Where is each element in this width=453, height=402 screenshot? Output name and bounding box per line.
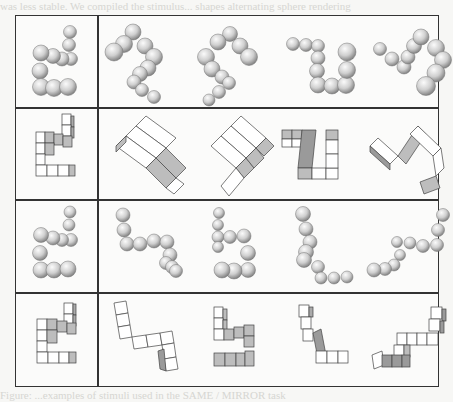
cube-figure-2d	[370, 126, 444, 194]
sphere-chain-3b	[212, 208, 256, 280]
sphere-chain-1a	[105, 24, 163, 104]
cube-figure-4d	[372, 307, 446, 369]
sphere-chain-3c	[296, 207, 354, 285]
row-2-cube-stimuli	[16, 108, 440, 200]
cube-figure-ref-2	[36, 114, 75, 176]
sphere-chain-ref-3	[33, 206, 78, 278]
bleed-through-text-top: was less stable. We compiled the stimulu…	[0, 0, 453, 13]
stimuli-figure-table	[15, 15, 439, 387]
cube-figure-4c	[299, 305, 348, 363]
cube-figure-2c	[282, 130, 338, 179]
cube-figure-2a	[116, 116, 186, 194]
cube-figure-2b	[211, 116, 274, 196]
sphere-chain-1c	[287, 38, 357, 95]
sphere-chain-1d	[374, 29, 452, 96]
sphere-chain-1b	[198, 27, 258, 107]
sphere-chain-ref-1	[32, 26, 78, 97]
row-1-sphere-stimuli	[16, 16, 440, 108]
row-4-cube-stimuli	[16, 293, 440, 387]
row-3-sphere-stimuli	[16, 200, 440, 292]
sphere-chain-3d	[367, 209, 450, 278]
bleed-through-text-bottom: Figure: ...examples of stimuli used in t…	[0, 389, 453, 402]
cube-figure-4a	[114, 301, 178, 371]
cube-figure-4b	[214, 307, 254, 366]
cube-figure-ref-4	[37, 303, 76, 363]
sphere-chain-3a	[116, 208, 183, 278]
